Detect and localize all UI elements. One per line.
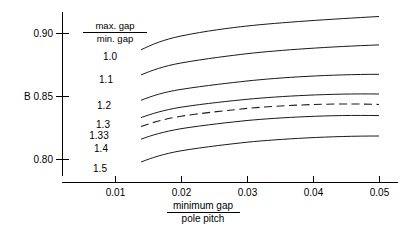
curves-group: [141, 17, 379, 163]
curve-label-1-5: 1.5: [93, 163, 107, 174]
chart-figure: 0.90 0.85 0.80 B 0.01 0.02 0.03 0.04 0.0…: [0, 0, 410, 227]
x-tick-label-2: 0.03: [238, 187, 258, 198]
curve-label-1-2: 1.2: [97, 100, 111, 111]
y-tick-label-1: 0.85: [34, 91, 54, 102]
x-tick-label-3: 0.04: [304, 187, 324, 198]
curve-label-1-33: 1.33: [89, 130, 109, 141]
x-axis-title: minimum gap pole pitch: [167, 200, 240, 224]
x-tick-label-0: 0.01: [106, 187, 126, 198]
x-axis-title-denominator: pole pitch: [182, 213, 225, 224]
curve-label-1-3: 1.3: [96, 119, 110, 130]
curve-1-3: [141, 94, 379, 118]
x-tick-label-1: 0.02: [172, 187, 192, 198]
x-axis-title-numerator: minimum gap: [173, 200, 233, 211]
curve-1-1: [141, 45, 379, 75]
curve-1-4: [141, 115, 379, 139]
y-axis-title: B: [24, 91, 31, 102]
legend-denominator: min. gap: [97, 33, 133, 44]
legend: max. gap min. gap: [83, 20, 147, 44]
curve-1-2: [141, 74, 379, 100]
x-tick-label-4: 0.05: [370, 187, 390, 198]
curve-label-1-1: 1.1: [99, 74, 113, 85]
chart-svg: 0.90 0.85 0.80 B 0.01 0.02 0.03 0.04 0.0…: [0, 0, 410, 227]
y-tick-label-2: 0.80: [34, 154, 54, 165]
curve-1-5: [141, 136, 379, 162]
curve-labels-group: 1.0 1.1 1.2 1.3 1.33 1.4 1.5: [89, 51, 117, 174]
y-tick-label-0: 0.90: [34, 28, 54, 39]
legend-numerator: max. gap: [95, 20, 134, 31]
curve-label-1-4: 1.4: [94, 143, 108, 154]
curve-1-0: [141, 17, 379, 50]
curve-label-1-0: 1.0: [103, 51, 117, 62]
